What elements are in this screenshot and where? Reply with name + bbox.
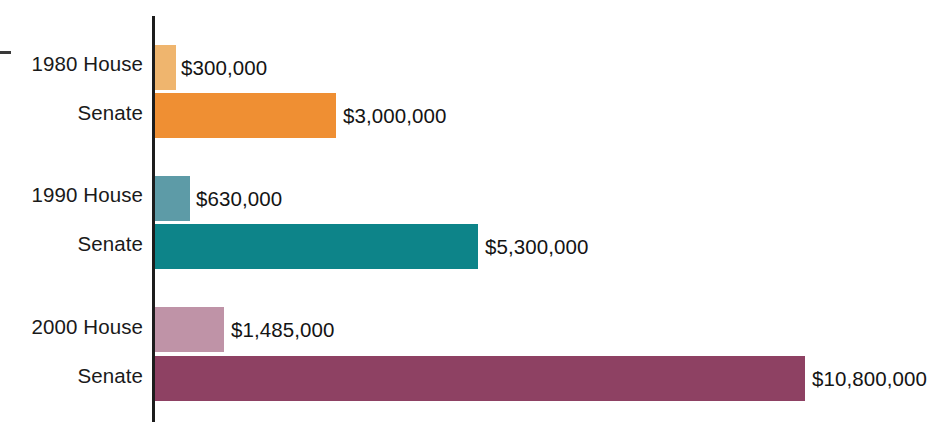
bar-value-1990-senate: $5,300,000 — [485, 235, 589, 259]
bar-value-1980-senate: $3,000,000 — [343, 104, 447, 128]
bar-value-2000-house: $1,485,000 — [231, 318, 335, 342]
bar-1990-house — [155, 176, 190, 221]
row-label-1990-house: 1990 House — [0, 183, 152, 207]
bar-2000-house — [155, 307, 224, 352]
row-label-2000-senate: Senate — [0, 364, 152, 388]
bar-1980-senate — [155, 93, 336, 138]
row-label-1990-senate: Senate — [0, 232, 152, 256]
bar-value-2000-senate: $10,800,000 — [812, 367, 927, 391]
bar-2000-senate — [155, 356, 805, 401]
bar-value-1980-house: $300,000 — [181, 56, 267, 80]
row-label-1980-house: 1980 House — [0, 52, 152, 76]
bar-1980-house — [155, 45, 176, 90]
bar-value-1990-house: $630,000 — [196, 187, 282, 211]
row-label-2000-house: 2000 House — [0, 315, 152, 339]
row-label-1980-senate: Senate — [0, 101, 152, 125]
bar-chart: 1980 House $300,000 Senate $3,000,000 19… — [0, 0, 949, 438]
bar-1990-senate — [155, 224, 478, 269]
